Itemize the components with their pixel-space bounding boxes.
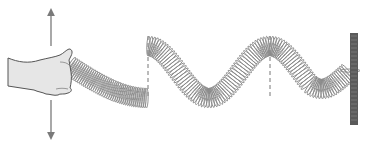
fixed-wall [350, 33, 358, 125]
spring-wave-diagram [0, 0, 370, 154]
hand-icon [8, 49, 72, 95]
spring-wave [63, 36, 360, 108]
